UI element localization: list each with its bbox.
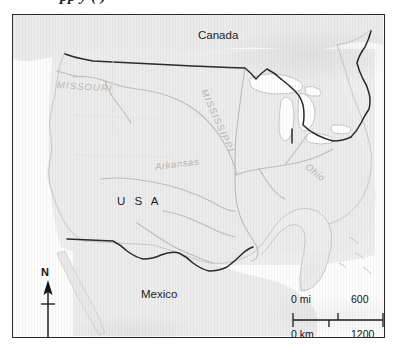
scale-bar-km-start: 0 km	[291, 328, 314, 338]
figure-caption-text: pp y ( )	[60, 0, 106, 5]
north-arrow: N	[35, 268, 61, 338]
label-usa: U S A	[117, 195, 161, 207]
map-graphic	[13, 15, 383, 336]
landmass-layer	[13, 15, 383, 336]
north-arrow-label: N	[41, 266, 49, 278]
map-figure: pp y ( )	[0, 0, 400, 350]
scale-bar-miles-start: 0 mi	[291, 293, 311, 305]
north-arrow-graphic	[35, 268, 61, 338]
figure-caption-clipped: pp y ( )	[0, 0, 400, 5]
scale-bar: 0 mi 600 0 km 1200	[291, 295, 385, 338]
scale-bar-miles-end: 600	[351, 293, 369, 305]
lake-ontario	[331, 125, 351, 134]
map-frame: Canada U S A Mexico MISSOURI MISSISSIPPI…	[12, 14, 385, 338]
label-canada: Canada	[198, 29, 238, 41]
label-mexico: Mexico	[141, 288, 177, 300]
map-canvas: Canada U S A Mexico MISSOURI MISSISSIPPI…	[13, 15, 384, 337]
scale-bar-km-end: 1200	[351, 328, 374, 338]
